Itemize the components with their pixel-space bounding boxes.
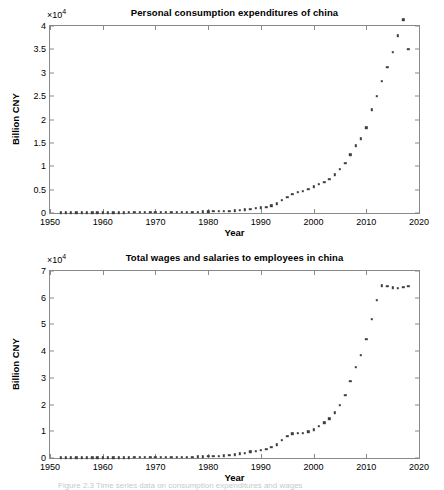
- data-point-marker: [318, 425, 320, 427]
- data-point-marker: [391, 286, 393, 288]
- y-tick-label: 1: [41, 161, 46, 171]
- data-point-marker: [239, 209, 241, 211]
- y-tick-mark: [50, 189, 54, 190]
- x-tick-mark: [366, 271, 367, 275]
- data-point-marker: [175, 211, 177, 213]
- x-tick-label: 1950: [40, 462, 60, 472]
- data-point-marker: [144, 211, 146, 213]
- data-point-marker: [297, 432, 299, 434]
- x-tick-mark: [50, 209, 51, 213]
- data-point-marker: [275, 444, 277, 446]
- data-point-marker: [165, 211, 167, 213]
- chart-panel-wages: Total wages and salaries to employees in…: [0, 245, 444, 490]
- y-axis-label-bottom: Billion CNY: [8, 270, 22, 459]
- y-tick-mark: [415, 324, 419, 325]
- data-point-marker: [149, 211, 151, 213]
- data-point-marker: [370, 318, 372, 320]
- x-tick-label: 1970: [145, 462, 165, 472]
- x-tick-mark: [50, 454, 51, 458]
- y-exponent-base: ×10: [47, 10, 62, 20]
- data-point-marker: [228, 210, 230, 212]
- chart-title-consumption: Personal consumption expenditures of chi…: [49, 7, 420, 18]
- data-point-marker: [149, 456, 151, 458]
- data-point-marker: [349, 380, 351, 382]
- data-point-marker: [286, 196, 288, 198]
- data-point-marker: [381, 285, 383, 287]
- data-point-marker: [212, 210, 214, 212]
- y-tick-label: 3: [41, 373, 46, 383]
- data-point-marker: [386, 285, 388, 287]
- data-point-marker: [323, 422, 325, 424]
- y-exponent-base: ×10: [47, 255, 62, 265]
- data-point-marker: [239, 453, 241, 455]
- x-tick-label: 1950: [40, 217, 60, 227]
- data-point-marker: [370, 108, 372, 110]
- data-point-marker: [196, 211, 198, 213]
- data-point-marker: [138, 456, 140, 458]
- x-tick-mark: [314, 26, 315, 30]
- data-point-marker: [297, 191, 299, 193]
- data-point-marker: [133, 211, 135, 213]
- data-point-marker: [365, 127, 367, 129]
- y-tick-label: 7: [41, 266, 46, 276]
- data-point-marker: [312, 185, 314, 187]
- y-tick-mark: [415, 142, 419, 143]
- data-point-marker: [376, 299, 378, 301]
- data-point-marker: [107, 456, 109, 458]
- data-point-marker: [260, 206, 262, 208]
- y-tick-label: 3.5: [33, 44, 46, 54]
- x-tick-mark: [208, 26, 209, 30]
- y-tick-mark: [415, 72, 419, 73]
- x-tick-mark: [419, 271, 420, 275]
- data-point-marker: [333, 412, 335, 414]
- x-tick-mark: [419, 454, 420, 458]
- data-point-marker: [397, 287, 399, 289]
- data-point-marker: [254, 450, 256, 452]
- data-point-marker: [70, 457, 72, 459]
- x-tick-label: 1960: [93, 462, 113, 472]
- data-point-marker: [307, 188, 309, 190]
- y-tick-label: 5: [41, 319, 46, 329]
- data-point-marker: [233, 453, 235, 455]
- x-tick-mark: [261, 209, 262, 213]
- data-point-marker: [407, 48, 409, 50]
- data-point-marker: [254, 207, 256, 209]
- y-tick-mark: [415, 189, 419, 190]
- data-point-marker: [291, 433, 293, 435]
- x-axis-label-top: Year: [49, 227, 420, 238]
- data-point-marker: [391, 51, 393, 53]
- data-point-marker: [402, 18, 404, 20]
- y-tick-mark: [415, 377, 419, 378]
- y-tick-mark: [415, 404, 419, 405]
- data-point-marker: [202, 211, 204, 213]
- data-point-marker: [75, 212, 77, 214]
- data-point-marker: [123, 456, 125, 458]
- y-tick-mark: [50, 431, 54, 432]
- data-point-marker: [328, 178, 330, 180]
- x-tick-mark: [261, 26, 262, 30]
- y-tick-mark: [50, 404, 54, 405]
- y-tick-mark: [50, 297, 54, 298]
- data-point-marker: [397, 34, 399, 36]
- x-tick-label: 2010: [356, 217, 376, 227]
- x-tick-label: 1980: [198, 462, 218, 472]
- data-point-marker: [191, 211, 193, 213]
- data-point-marker: [223, 455, 225, 457]
- data-point-marker: [228, 454, 230, 456]
- data-point-marker: [80, 212, 82, 214]
- data-point-marker: [112, 211, 114, 213]
- data-point-marker: [186, 456, 188, 458]
- x-tick-label: 1990: [251, 217, 271, 227]
- data-point-marker: [360, 138, 362, 140]
- x-tick-mark: [366, 209, 367, 213]
- data-point-marker: [207, 210, 209, 212]
- data-point-marker: [249, 208, 251, 210]
- y-tick-mark: [50, 72, 54, 73]
- data-point-marker: [244, 452, 246, 454]
- x-tick-mark: [419, 26, 420, 30]
- data-point-marker: [323, 181, 325, 183]
- data-point-marker: [86, 456, 88, 458]
- data-point-marker: [302, 432, 304, 434]
- chart-title-wages: Total wages and salaries to employees in…: [49, 252, 420, 263]
- y-tick-mark: [415, 119, 419, 120]
